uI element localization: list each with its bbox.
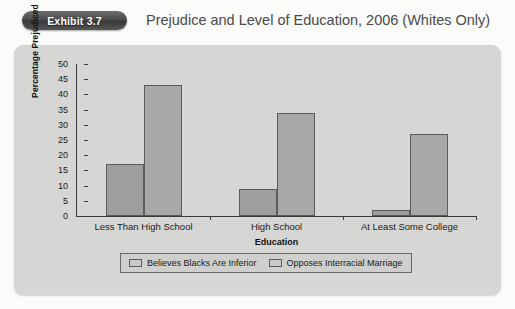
y-tick-label: 25 [58,136,68,145]
bar-group [210,64,343,216]
x-group-separator [343,216,344,220]
x-tick-label: High School [251,221,302,232]
y-axis-ticks: 05101520253035404550 [46,64,72,216]
y-tick-label: 30 [58,120,68,129]
legend-label: Believes Blacks Are Inferior [147,258,257,268]
x-tick-label: At Least Some College [361,221,458,232]
chart-panel: Percentage Prejudiced 051015202530354045… [14,45,501,295]
y-axis-title: Percentage Prejudiced [30,0,40,106]
x-group-separator [210,216,211,220]
exhibit-badge-label: Exhibit 3.7 [47,15,102,27]
y-tick-label: 15 [58,166,68,175]
bar-group [343,64,476,216]
y-tick-label: 5 [63,196,68,205]
legend-item: Opposes Interracial Marriage [269,258,403,268]
bar-1-0 [144,85,182,216]
bar-0-2 [372,210,410,216]
chart-legend: Believes Blacks Are InferiorOpposes Inte… [120,253,412,273]
exhibit-figure: Exhibit 3.7 Prejudice and Level of Educa… [0,0,515,309]
chart-plot-area: Percentage Prejudiced 051015202530354045… [34,51,481,289]
legend-swatch-icon [129,259,142,267]
legend-item: Believes Blacks Are Inferior [129,258,257,268]
bar-1-1 [277,113,315,216]
bar-1-2 [410,134,448,216]
x-axis-labels: Less Than High SchoolHigh SchoolAt Least… [77,221,476,237]
y-tick-label: 20 [58,151,68,160]
legend-swatch-icon [269,259,282,267]
bars-container [77,64,476,216]
bar-0-0 [106,164,144,216]
y-tick-label: 50 [58,60,68,69]
x-tick-label: Less Than High School [94,221,192,232]
y-tick-label: 0 [63,212,68,221]
exhibit-header: Exhibit 3.7 Prejudice and Level of Educa… [0,0,515,42]
bar-0-1 [239,189,277,216]
bar-group [77,64,210,216]
legend-label: Opposes Interracial Marriage [287,258,403,268]
y-tick-label: 40 [58,90,68,99]
y-tick-label: 10 [58,181,68,190]
x-axis-line [76,216,476,217]
x-axis-title: Education [77,237,476,247]
y-tick-label: 35 [58,105,68,114]
y-tick-label: 45 [58,75,68,84]
x-group-separator [476,216,477,220]
exhibit-title: Prejudice and Level of Education, 2006 (… [146,12,490,28]
